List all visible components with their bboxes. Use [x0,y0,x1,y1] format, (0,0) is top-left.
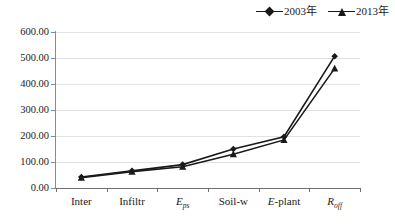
x-axis-tick-label: Infiltr [119,195,145,207]
x-axis-tick-label: Eps [176,195,189,212]
legend-item-2013: 2013年 [328,6,389,17]
x-axis-tick-label: Soil-w [219,195,248,207]
y-axis-tick-label: 300.00 [3,105,49,116]
x-axis-tick [360,188,361,192]
x-axis-tick [107,188,108,192]
x-axis-tick [157,188,158,192]
x-axis-tick [309,188,310,192]
legend-item-2003: 2003年 [256,6,317,17]
x-axis-tick [259,188,260,192]
x-axis-tick-label: Roff [327,195,342,212]
series-layer [56,32,360,188]
y-axis-tick-label: 200.00 [3,131,49,142]
y-axis-tick-label: 400.00 [3,79,49,90]
x-axis-tick [208,188,209,192]
y-axis-tick-label: 0.00 [3,183,49,194]
series-line [81,68,334,177]
series-2013 [78,65,339,181]
y-axis-tick-label: 600.00 [3,27,49,38]
y-axis-tick-label: 500.00 [3,53,49,64]
plot-area [56,32,360,188]
diamond-marker-icon [256,6,283,17]
x-axis-tick [56,188,57,192]
chart-container: 2003年 2013年 0.00100.00200.00300.00400.00… [0,0,395,224]
data-point-triangle [331,65,338,72]
y-axis-tick-label: 100.00 [3,157,49,168]
legend-label-2013: 2013年 [356,6,389,17]
x-axis-tick-label: Inter [71,195,92,207]
triangle-marker-icon [328,6,355,17]
legend-label-2003: 2003年 [284,6,317,17]
chart-legend: 2003年 2013年 [256,3,389,19]
x-axis-tick-label: E-plant [268,195,300,207]
series-line [81,56,334,177]
